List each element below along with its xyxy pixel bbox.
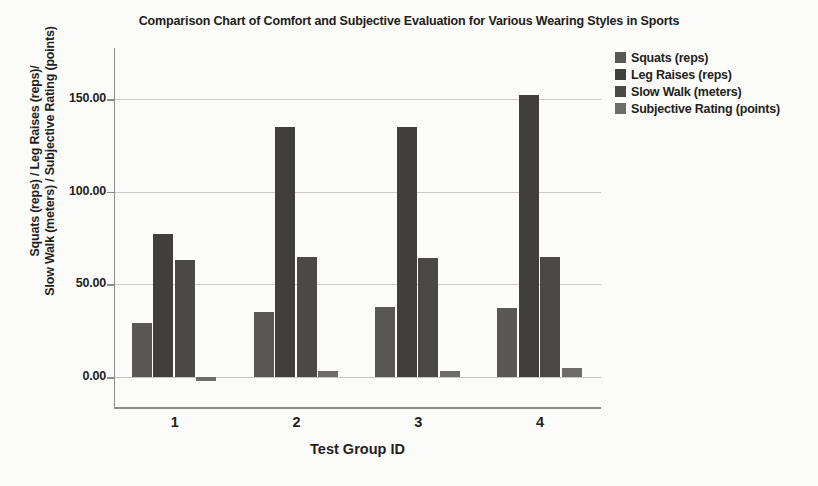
legend-item[interactable]: Subjective Rating (points) [615,101,780,116]
y-axis-tick-label: 0.00 [44,369,106,383]
y-axis-title-line-1: Squats (reps) / Leg Raises (reps)/ [28,16,43,306]
legend-label-squats: Squats (reps) [631,51,708,65]
bar[interactable] [418,258,438,377]
bar[interactable] [175,260,195,377]
chart-title: Comparison Chart of Comfort and Subjecti… [0,14,818,28]
bar[interactable] [132,323,152,377]
bar[interactable] [497,308,517,377]
y-axis-tick-mark [107,99,114,101]
legend-swatch-slow-walk [615,86,626,97]
y-axis-tick-label: 100.00 [44,184,106,198]
legend-label-leg-raises: Leg Raises (reps) [631,68,732,82]
legend-swatch-squats [615,52,626,63]
y-axis-tick-label: 50.00 [44,276,106,290]
x-axis-tick-label: 4 [510,414,570,430]
x-axis-tick-label: 2 [267,414,327,430]
y-axis-tick-mark [107,377,114,379]
bar[interactable] [318,371,338,377]
chart-legend: Squats (reps) Leg Raises (reps) Slow Wal… [615,50,780,116]
bar[interactable] [440,371,460,377]
bar[interactable] [540,257,560,377]
bar[interactable] [397,127,417,377]
legend-swatch-leg-raises [615,69,626,80]
legend-item[interactable]: Squats (reps) [615,50,780,65]
bar[interactable] [196,377,216,381]
legend-item[interactable]: Leg Raises (reps) [615,67,780,82]
bar[interactable] [275,127,295,377]
bar[interactable] [297,257,317,377]
y-axis-tick-mark [107,284,114,286]
legend-item[interactable]: Slow Walk (meters) [615,84,780,99]
legend-label-slow-walk: Slow Walk (meters) [631,85,742,99]
x-axis-line [114,407,601,409]
bar[interactable] [519,95,539,377]
y-axis-tick-mark [107,192,114,194]
bar[interactable] [562,368,582,377]
bar-chart: Comparison Chart of Comfort and Subjecti… [0,0,818,486]
x-axis-tick-label: 3 [388,414,448,430]
y-axis-title-line-2: Slow Walk (meters) / Subjective Rating (… [43,16,58,306]
x-axis-title: Test Group ID [114,441,601,457]
legend-label-subjective-rating: Subjective Rating (points) [631,102,780,116]
y-axis-title: Squats (reps) / Leg Raises (reps)/ Slow … [28,16,58,306]
x-axis-tick-label: 1 [145,414,205,430]
y-axis-tick-label: 150.00 [44,91,106,105]
bar[interactable] [254,312,274,377]
bar[interactable] [153,234,173,377]
legend-swatch-subjective-rating [615,103,626,114]
bar[interactable] [375,307,395,377]
